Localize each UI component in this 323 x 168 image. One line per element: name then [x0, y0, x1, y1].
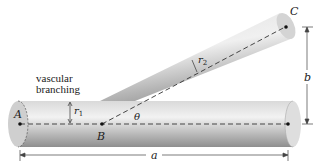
point-a: [18, 122, 22, 126]
label-a-dimension: a: [151, 149, 158, 162]
point-b: [100, 122, 104, 126]
caption-line-2: branching: [36, 83, 80, 95]
point-c: [284, 25, 288, 29]
point-end: [286, 122, 290, 126]
label-a-point: A: [13, 108, 22, 121]
label-theta: θ: [134, 111, 140, 122]
vascular-branching-diagram: vascular branching A B C r1 r2 θ a b: [0, 0, 323, 168]
label-c-point: C: [290, 5, 299, 18]
label-b-point: B: [96, 130, 105, 143]
main-vessel: [8, 101, 301, 147]
label-b-dimension: b: [304, 71, 311, 84]
